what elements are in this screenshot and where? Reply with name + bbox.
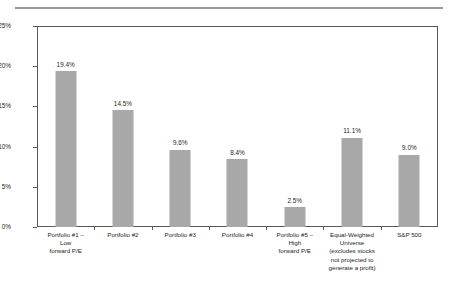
- x-axis-category-label-line: forward P/E: [33, 247, 99, 255]
- x-axis-category-label-line: Universe: [319, 239, 385, 247]
- bar-value-label: 14.5%: [98, 101, 148, 107]
- bar-group: 11.1%: [323, 26, 380, 227]
- bar-value-label: 8.4%: [212, 150, 262, 156]
- x-axis-category-label-line: (excludes stocks: [319, 247, 385, 255]
- y-axis: 0%5%10%15%20%25%: [0, 0, 37, 299]
- x-axis-category-label-line: Equal-Weighted: [319, 231, 385, 239]
- x-axis-category-label-line: High: [262, 239, 328, 247]
- bar-value-label: 2.5%: [270, 198, 320, 204]
- y-axis-tick-label: 5%: [0, 184, 11, 190]
- bar-group: 2.5%: [266, 26, 323, 227]
- x-axis-category-label: Portfolio #2: [90, 231, 156, 239]
- x-axis-category-label: Portfolio #4: [205, 231, 271, 239]
- x-axis-category-label-line: S&P 500: [376, 231, 442, 239]
- x-axis-category-label-line: Portfolio #3: [147, 231, 213, 239]
- bar-group: 8.4%: [209, 26, 266, 227]
- x-axis-tick-mark: [381, 227, 382, 230]
- bar-group: 19.4%: [37, 26, 94, 227]
- x-axis-category-label: Portfolio #1 –Lowforward P/E: [33, 231, 99, 256]
- bar: [284, 207, 305, 227]
- y-axis-tick-label: 25%: [0, 23, 11, 29]
- bar-chart-figure: 0%5%10%15%20%25% 19.4%14.5%9.6%8.4%2.5%1…: [0, 0, 457, 299]
- x-axis-tick-mark: [209, 227, 210, 230]
- x-axis-tick-mark: [94, 227, 95, 230]
- bar-value-label: 9.0%: [384, 145, 434, 151]
- y-axis-tick-label: 10%: [0, 143, 11, 149]
- x-axis-category-label-line: generate a profit): [319, 264, 385, 272]
- x-axis-category-label: Portfolio #3: [147, 231, 213, 239]
- bar-group: 14.5%: [94, 26, 151, 227]
- bar-group: 9.0%: [381, 26, 438, 227]
- bars-layer: 19.4%14.5%9.6%8.4%2.5%11.1%9.0%: [37, 26, 438, 227]
- x-axis-category-label-line: forward P/E: [262, 247, 328, 255]
- bar-group: 9.6%: [152, 26, 209, 227]
- bar-value-label: 9.6%: [155, 140, 205, 146]
- bar: [399, 155, 420, 227]
- y-axis-tick-label: 0%: [0, 224, 11, 230]
- x-axis-category-label-line: Portfolio #5 –: [262, 231, 328, 239]
- bar: [55, 71, 76, 227]
- y-axis-tick-label: 20%: [0, 63, 11, 69]
- bar-value-label: 11.1%: [327, 128, 377, 134]
- x-axis-category-label-line: Portfolio #1 –: [33, 231, 99, 239]
- x-axis-category-label-line: Portfolio #2: [90, 231, 156, 239]
- x-axis-category-label: S&P 500: [376, 231, 442, 239]
- bar: [227, 159, 248, 227]
- x-axis-category-label: Portfolio #5 –Highforward P/E: [262, 231, 328, 256]
- bar: [170, 150, 191, 227]
- y-axis-tick-label: 15%: [0, 103, 11, 109]
- x-axis-tick-mark: [152, 227, 153, 230]
- x-axis-category-label: Equal-WeightedUniverse(excludes stocksno…: [319, 231, 385, 272]
- x-axis: Portfolio #1 –Lowforward P/EPortfolio #2…: [37, 231, 438, 299]
- x-axis-category-label-line: Low: [33, 239, 99, 247]
- x-axis-category-label-line: Portfolio #4: [205, 231, 271, 239]
- bar: [112, 110, 133, 227]
- bar-value-label: 19.4%: [41, 62, 91, 68]
- y-axis-tick-mark: [33, 227, 37, 228]
- x-axis-tick-mark: [266, 227, 267, 230]
- x-axis-category-label-line: not projected to: [319, 256, 385, 264]
- bar: [342, 138, 363, 227]
- x-axis-tick-mark: [323, 227, 324, 230]
